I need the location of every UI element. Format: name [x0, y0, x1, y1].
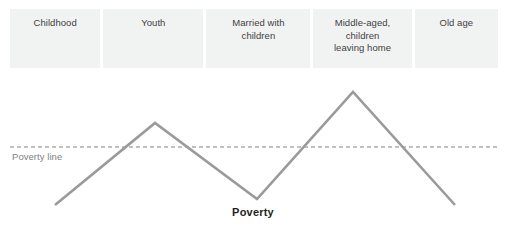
stage-cell-middle-aged: Middle-aged, children leaving home	[313, 9, 411, 68]
stage-label: Youth	[103, 17, 203, 30]
stage-cell-married-with-children: Married with children	[206, 9, 310, 68]
poverty-line-label: Poverty line	[12, 151, 62, 162]
poverty-caption: Poverty	[0, 206, 506, 218]
life-cycle-poverty-diagram: Childhood Youth Married with children Mi…	[0, 0, 506, 237]
stage-label: Middle-aged, children leaving home	[313, 17, 411, 55]
stage-cell-old-age: Old age	[415, 9, 498, 68]
stage-label: Childhood	[10, 17, 100, 30]
stage-label: Old age	[415, 17, 498, 30]
stage-cell-childhood: Childhood	[10, 9, 100, 68]
stage-cell-youth: Youth	[103, 9, 203, 68]
poverty-curve-line	[55, 92, 455, 205]
stage-label: Married with children	[206, 17, 310, 42]
life-stage-header: Childhood Youth Married with children Mi…	[10, 9, 498, 68]
